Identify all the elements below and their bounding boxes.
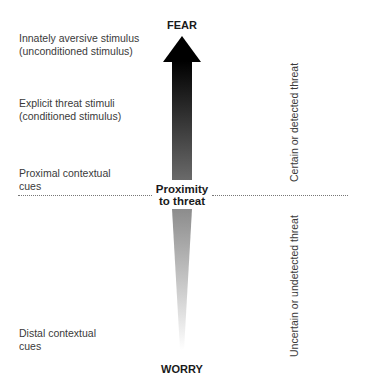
left-label-unconditioned: Innately aversive stimulus (unconditione… <box>19 32 139 58</box>
label-line: Innately aversive stimulus <box>19 32 139 45</box>
proximity-label: Proximity to threat <box>148 183 216 207</box>
label-line: Proximal contextual <box>19 167 111 180</box>
arrow-shaft-upper <box>172 61 192 180</box>
left-label-proximal: Proximal contextual cues <box>19 167 111 193</box>
left-label-conditioned: Explicit threat stimuli (conditioned sti… <box>19 97 121 123</box>
divider-right <box>212 195 348 196</box>
left-label-distal: Distal contextual cues <box>19 327 96 353</box>
label-line: cues <box>19 340 96 353</box>
right-label-certain: Certain or detected threat <box>288 63 300 182</box>
proximity-line2: to threat <box>148 195 216 207</box>
label-line: (conditioned stimulus) <box>19 110 121 123</box>
label-line: Distal contextual <box>19 327 96 340</box>
fear-label: FEAR <box>162 19 202 31</box>
right-label-uncertain: Uncertain or undetected threat <box>288 215 300 357</box>
label-line: (unconditioned stimulus) <box>19 45 139 58</box>
arrow-shaft-lower <box>172 209 192 350</box>
arrow-head <box>163 36 201 62</box>
worry-label: WORRY <box>157 363 207 375</box>
proximity-line1: Proximity <box>148 183 216 195</box>
label-line: Explicit threat stimuli <box>19 97 121 110</box>
label-line: cues <box>19 180 111 193</box>
divider-left <box>18 195 152 196</box>
